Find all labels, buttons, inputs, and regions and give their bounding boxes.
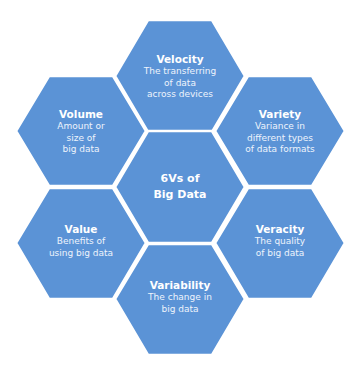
node-veracity: Veracity The quality of big data: [225, 222, 335, 259]
node-title: Velocity: [125, 52, 235, 66]
node-volume: Volume Amount or size of big data: [26, 107, 136, 156]
node-variability: Variability The change in big data: [125, 278, 235, 315]
node-variety: Variety Variance in different types of d…: [225, 107, 335, 156]
node-description: The transferring of data across devices: [125, 66, 235, 101]
node-velocity: Velocity The transferring of data across…: [125, 52, 235, 101]
six-vs-big-data-diagram: 6Vs of Big Data Velocity The transferrin…: [0, 0, 361, 373]
node-description: Variance in different types of data form…: [225, 121, 335, 156]
node-title: Volume: [26, 107, 136, 121]
node-title: Variability: [125, 278, 235, 292]
node-description: Benefits of using big data: [26, 236, 136, 259]
node-title: Variety: [225, 107, 335, 121]
node-description: Amount or size of big data: [26, 121, 136, 156]
node-value: Value Benefits of using big data: [26, 222, 136, 259]
node-description: The change in big data: [125, 292, 235, 315]
center-label: 6Vs of Big Data: [125, 171, 235, 203]
node-title: Veracity: [225, 222, 335, 236]
node-description: The quality of big data: [225, 236, 335, 259]
node-title: Value: [26, 222, 136, 236]
center-title: 6Vs of Big Data: [125, 171, 235, 203]
